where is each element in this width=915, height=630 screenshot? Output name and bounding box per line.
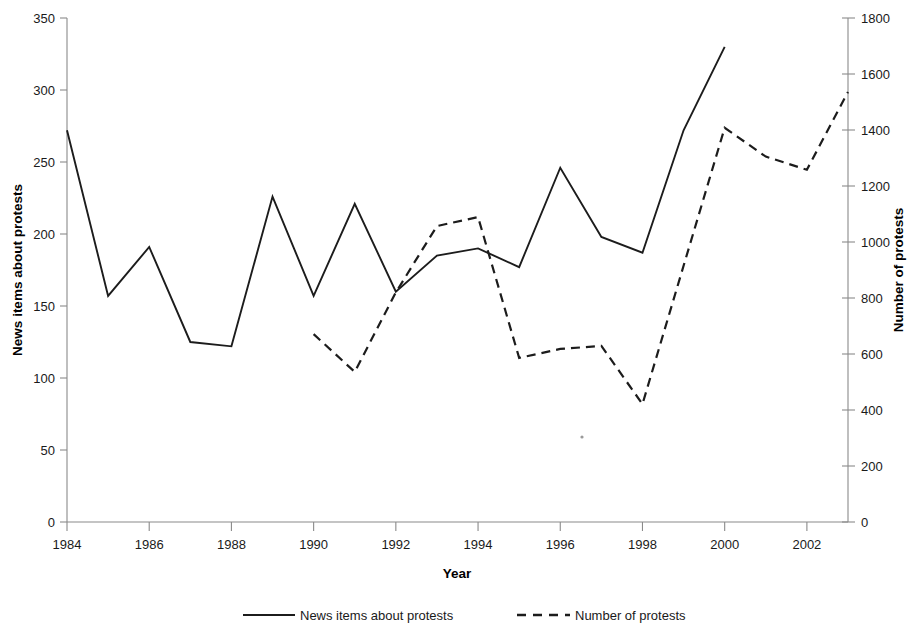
y-left-tick-label: 50 [41, 443, 55, 458]
y-axis-right-ticks: 020040060080010001200140016001800 [842, 11, 890, 530]
x-tick-label: 2002 [792, 537, 821, 552]
series-news-items-line [67, 47, 725, 347]
y-axis-right-title: Number of protests [891, 208, 906, 333]
legend-label-number-of-protests: Number of protests [575, 608, 686, 623]
y-right-tick-label: 0 [861, 515, 868, 530]
y-right-tick-label: 800 [861, 291, 883, 306]
y-left-tick-label: 200 [33, 227, 55, 242]
y-right-tick-label: 1800 [861, 11, 890, 26]
x-tick-label: 1994 [464, 537, 493, 552]
y-left-tick-label: 350 [33, 11, 55, 26]
y-right-tick-label: 1200 [861, 179, 890, 194]
x-tick-label: 2000 [710, 537, 739, 552]
y-right-tick-label: 1600 [861, 67, 890, 82]
y-right-tick-label: 400 [861, 403, 883, 418]
y-right-tick-label: 1000 [861, 235, 890, 250]
x-tick-label: 1984 [53, 537, 82, 552]
x-axis-ticks: 1984198619881990199219941996199820002002 [53, 522, 822, 552]
x-tick-label: 1990 [299, 537, 328, 552]
x-tick-label: 1998 [628, 537, 657, 552]
scan-speck [580, 435, 583, 438]
x-tick-label: 1992 [381, 537, 410, 552]
x-axis-title: Year [443, 566, 472, 581]
y-left-tick-label: 100 [33, 371, 55, 386]
y-right-tick-label: 1400 [861, 123, 890, 138]
y-axis-left-title: News items about protests [10, 184, 25, 356]
x-tick-label: 1986 [135, 537, 164, 552]
x-tick-label: 1996 [546, 537, 575, 552]
y-left-tick-label: 250 [33, 155, 55, 170]
plot-area [67, 47, 848, 404]
chart-legend: News items about protests Number of prot… [243, 608, 686, 623]
y-axis-left-ticks: 050100150200250300350 [33, 11, 67, 530]
chart-figure: 050100150200250300350 News items about p… [0, 0, 915, 630]
legend-label-news-items: News items about protests [300, 608, 454, 623]
y-axis-right: 020040060080010001200140016001800 Number… [842, 11, 906, 530]
y-right-tick-label: 600 [861, 347, 883, 362]
y-left-tick-label: 150 [33, 299, 55, 314]
x-axis: 1984198619881990199219941996199820002002… [53, 522, 848, 581]
y-left-tick-label: 300 [33, 83, 55, 98]
x-tick-label: 1988 [217, 537, 246, 552]
y-axis-left: 050100150200250300350 News items about p… [10, 11, 67, 530]
y-left-tick-label: 0 [48, 515, 55, 530]
y-right-tick-label: 200 [861, 459, 883, 474]
chart-canvas: 050100150200250300350 News items about p… [0, 0, 915, 630]
series-number-of-protests-line [314, 92, 848, 404]
